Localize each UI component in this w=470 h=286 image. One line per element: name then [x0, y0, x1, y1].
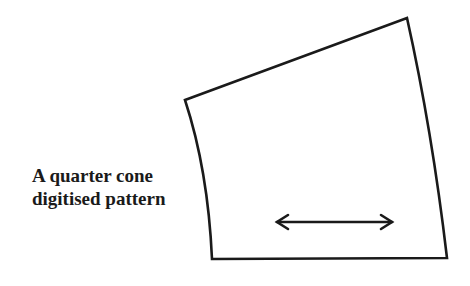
diagram-canvas: A quarter cone digitised pattern [0, 0, 470, 286]
pattern-label: A quarter cone digitised pattern [32, 164, 166, 210]
label-line-1: A quarter cone [32, 164, 166, 187]
pattern-drawing [0, 0, 470, 286]
grainline-arrow-icon [277, 215, 392, 229]
label-line-2: digitised pattern [32, 187, 166, 210]
